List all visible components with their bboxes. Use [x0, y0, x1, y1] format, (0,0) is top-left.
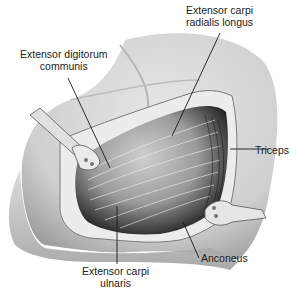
- anatomy-figure: Extensor carpi radialis longus Extensor …: [0, 0, 296, 291]
- label-extensor-digitorum-communis: Extensor digitorum communis: [20, 48, 108, 72]
- elbow-illustration: [0, 0, 296, 291]
- label-triceps: Triceps: [255, 144, 289, 156]
- label-extensor-carpi-ulnaris: Extensor carpi ulnaris: [82, 265, 149, 289]
- label-anconeus: Anconeus: [201, 252, 248, 264]
- label-extensor-carpi-radialis-longus: Extensor carpi radialis longus: [186, 4, 253, 28]
